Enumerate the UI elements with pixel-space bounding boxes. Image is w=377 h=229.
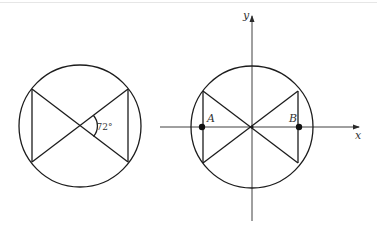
point-a <box>199 124 205 130</box>
angle-label: 72° <box>97 122 113 132</box>
right-figure: x y A B <box>160 9 362 221</box>
geometry-diagram: 72° x y A B <box>0 0 377 229</box>
origin-point <box>250 125 253 128</box>
y-axis-label: y <box>242 9 250 22</box>
point-a-label: A <box>206 112 215 125</box>
left-figure: 72° <box>19 65 141 187</box>
point-b-label: B <box>288 112 297 125</box>
x-axis-label: x <box>355 129 362 142</box>
